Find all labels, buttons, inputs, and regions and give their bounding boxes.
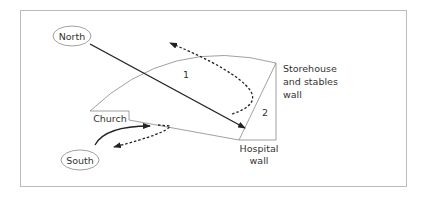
north-marker: North (53, 26, 91, 46)
south-attack-arrow (95, 126, 150, 145)
hospital-wall-label: Hospital wall (240, 143, 279, 166)
svg-text:and stables: and stables (283, 76, 338, 87)
church-label: Church (93, 113, 127, 124)
svg-text:wall: wall (250, 155, 269, 166)
south-label: South (66, 155, 94, 166)
svg-text:wall: wall (283, 89, 302, 100)
region-1-label: 1 (183, 69, 189, 80)
north-label: North (59, 31, 86, 42)
south-marker: South (61, 150, 99, 170)
svg-text:Hospital: Hospital (240, 143, 279, 154)
region-2-label: 2 (262, 107, 268, 118)
battle-diagram: North South 1 2 Church Storehouse and st… (0, 0, 426, 197)
svg-text:Storehouse: Storehouse (283, 63, 337, 74)
storehouse-wall-label: Storehouse and stables wall (283, 63, 338, 100)
